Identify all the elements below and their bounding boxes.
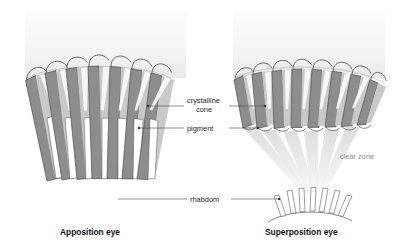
pigment-cell	[291, 69, 302, 128]
title-superposition-eye: Superposition eye	[265, 227, 338, 237]
superposition-sky-panel	[233, 12, 385, 78]
rhabdom	[299, 188, 305, 212]
leader-dot	[147, 105, 150, 108]
label-crystalline-cone-line2: cone	[196, 105, 212, 114]
rhabdom	[310, 188, 316, 212]
compound-eye-diagram: crystalline cone pigment rhabdom clear z…	[0, 0, 413, 247]
ommatidium	[272, 60, 294, 131]
label-crystalline-cone-line1: crystalline	[187, 96, 220, 105]
apposition-ommatidia-group	[26, 55, 176, 181]
leader-dot	[257, 127, 260, 130]
label-rhabdom: rhabdom	[190, 195, 219, 204]
title-apposition-eye: Apposition eye	[60, 227, 120, 237]
leader-dot	[278, 198, 281, 201]
label-pigment: pigment	[187, 124, 213, 133]
label-clear-zone: clear zone	[340, 152, 374, 161]
leader-dot	[264, 105, 267, 108]
leader-dot	[138, 127, 141, 130]
